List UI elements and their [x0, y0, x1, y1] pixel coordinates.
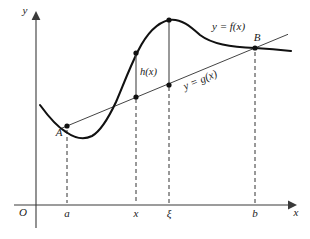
figure-container: y x O a x ξ b A B y = f(x) y = g(x) h(x) — [0, 0, 310, 239]
tick-label-xi: ξ — [167, 207, 172, 220]
point-gx-dot — [133, 94, 138, 99]
point-fx-dot — [133, 50, 138, 55]
point-B-dot — [252, 45, 257, 50]
y-axis-group — [32, 11, 41, 228]
origin-label: O — [19, 206, 27, 218]
tick-label-x: x — [133, 207, 139, 219]
tick-label-b: b — [252, 207, 258, 219]
curve-equation-label: y = f(x) — [211, 20, 245, 33]
point-label-A: A — [55, 126, 63, 138]
h-of-x-label: h(x) — [140, 66, 157, 78]
point-A-dot — [64, 123, 69, 128]
point-f-xi-dot — [166, 17, 171, 22]
x-axis-label: x — [293, 206, 299, 218]
marked-points-group — [64, 17, 257, 128]
y-axis-label: y — [22, 4, 28, 16]
tick-label-a: a — [64, 207, 70, 219]
dashed-ordinates-group — [67, 52, 255, 203]
mvt-diagram: y x O a x ξ b A B y = f(x) y = g(x) h(x) — [0, 0, 310, 239]
point-g-xi-dot — [166, 82, 171, 87]
y-axis-arrow — [32, 11, 41, 20]
point-label-B: B — [254, 31, 261, 43]
